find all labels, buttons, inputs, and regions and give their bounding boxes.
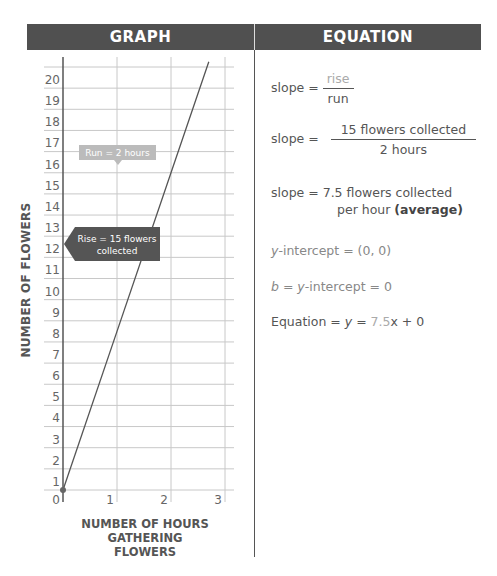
y-tick-label: 6: [52, 369, 60, 383]
y-variable: y: [297, 279, 304, 294]
b-variable: b: [271, 279, 279, 294]
slope-result-line1: slope = 7.5 flowers collected: [271, 184, 463, 201]
line-chart: 12345678910111213141516171819200123Run =…: [0, 0, 255, 576]
y-tick-label: 4: [52, 411, 60, 425]
equation-rest: x + 0: [391, 314, 425, 329]
per-hour-text: per hour: [337, 202, 394, 217]
y-tick-label: 8: [52, 327, 60, 341]
y-tick-label: 9: [52, 306, 60, 320]
y-tick-label: 14: [45, 200, 60, 214]
equation-header: EQUATION: [255, 24, 481, 50]
average-emphasis: (average): [394, 202, 463, 217]
data-line: [63, 62, 209, 490]
y-tick-label: 10: [45, 285, 60, 299]
slope-label: slope =: [271, 80, 323, 95]
y-axis-label: NUMBER OF FLOWERS: [19, 202, 33, 357]
slope-value: 7.5: [371, 314, 391, 329]
y-tick-label: 15: [45, 179, 60, 193]
y-tick-label: 20: [45, 73, 60, 87]
y-intercept-line: y-intercept = (0, 0): [271, 243, 391, 258]
run-callout-text: Run = 2 hours: [85, 148, 150, 158]
y-tick-label: 7: [52, 348, 60, 362]
equals: =: [352, 314, 370, 329]
fraction: riserun: [323, 71, 354, 106]
equation-line: Equation = y = 7.5x + 0: [271, 314, 424, 329]
y-tick-label: 2: [52, 454, 60, 468]
y-tick-label: 1: [52, 475, 60, 489]
x-axis-label-line1: NUMBER OF HOURS: [75, 517, 215, 531]
b-text: -intercept = 0: [305, 279, 392, 294]
rise-callout-text: collected: [97, 246, 138, 256]
y-tick-label: 13: [45, 221, 60, 235]
fraction: 15 flowers collected2 hours: [331, 122, 477, 157]
numerator: rise: [323, 71, 354, 89]
rise-callout-text: Rise = 15 flowers: [77, 234, 156, 244]
slope-label: slope =: [271, 131, 323, 146]
slope-result-line2: per hour (average): [271, 201, 463, 218]
denominator: run: [323, 89, 354, 106]
y-tick-label: 17: [45, 136, 60, 150]
numerator: 15 flowers collected: [331, 122, 477, 140]
y-tick-label: 16: [45, 158, 60, 172]
y-tick-label: 3: [52, 433, 60, 447]
denominator: 2 hours: [331, 140, 477, 157]
origin-point: [60, 487, 66, 493]
b-line: b = y-intercept = 0: [271, 279, 392, 294]
x-tick-label: 3: [214, 493, 222, 507]
y-tick-label: 19: [45, 94, 60, 108]
x-tick-label: 1: [106, 493, 114, 507]
equals: =: [279, 279, 297, 294]
x-tick-label: 2: [160, 493, 168, 507]
x-axis-label: NUMBER OF HOURS GATHERING FLOWERS: [75, 517, 215, 559]
y-tick-label: 18: [45, 115, 60, 129]
slope-formula: slope = riserun: [271, 71, 354, 106]
y-intercept-text: -intercept = (0, 0): [278, 243, 391, 258]
slope-values: slope = 15 flowers collected2 hours: [271, 122, 476, 157]
y-tick-label: 5: [52, 390, 60, 404]
equation-label: Equation =: [271, 314, 345, 329]
y-tick-label: 12: [45, 242, 60, 256]
x-axis-label-line2: GATHERING FLOWERS: [75, 531, 215, 559]
y-tick-label: 11: [45, 263, 60, 277]
slope-result: slope = 7.5 flowers collected per hour (…: [271, 184, 463, 218]
x-tick-label: 0: [52, 493, 60, 507]
run-callout-pointer: [114, 160, 122, 165]
